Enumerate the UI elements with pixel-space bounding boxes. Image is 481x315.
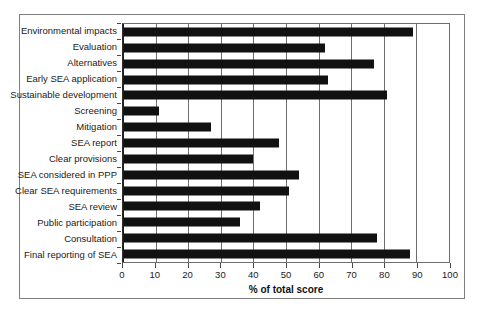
category-label: Final reporting of SEA: [20, 247, 121, 263]
bar-slot: [123, 40, 449, 56]
bar[interactable]: [123, 138, 279, 147]
x-tick-label: 50: [281, 269, 292, 281]
category-label: Consultation: [20, 231, 121, 247]
category-tick-mark: [117, 231, 121, 232]
x-tick-label: 0: [119, 269, 124, 281]
category-label: Environmental impacts: [20, 23, 121, 39]
category-tick-mark: [117, 55, 121, 56]
bars-layer: [123, 24, 449, 262]
category-tick-mark: [117, 135, 121, 136]
bar[interactable]: [123, 59, 374, 68]
category-tick-mark: [117, 183, 121, 184]
tick-mark: [220, 263, 221, 268]
x-tick-label: 80: [379, 269, 390, 281]
bar[interactable]: [123, 123, 211, 132]
bar-slot: [123, 214, 449, 230]
tick-mark: [122, 263, 123, 268]
bar[interactable]: [123, 43, 325, 52]
value-axis-tick-marks: [122, 263, 450, 268]
category-label: Mitigation: [20, 119, 121, 135]
category-tick-mark: [117, 119, 121, 120]
category-tick-mark: [117, 263, 121, 264]
category-label: Screening: [20, 103, 121, 119]
x-tick-label: 30: [215, 269, 226, 281]
bar[interactable]: [123, 249, 410, 258]
tick-mark: [319, 263, 320, 268]
category-label: SEA report: [20, 135, 121, 151]
category-tick-mark: [117, 151, 121, 152]
bar-slot: [123, 119, 449, 135]
bar[interactable]: [123, 170, 299, 179]
category-tick-mark: [117, 103, 121, 104]
bar-slot: [123, 183, 449, 199]
bar[interactable]: [123, 91, 387, 100]
bar[interactable]: [123, 27, 413, 36]
bar-slot: [123, 72, 449, 88]
category-label: Evaluation: [20, 39, 121, 55]
category-label: SEA review: [20, 199, 121, 215]
category-tick-mark: [117, 71, 121, 72]
tick-mark: [253, 263, 254, 268]
tick-mark: [384, 263, 385, 268]
tick-mark: [352, 263, 353, 268]
x-axis-title: % of total score: [122, 284, 450, 295]
bar[interactable]: [123, 186, 289, 195]
category-label: Public participation: [20, 215, 121, 231]
bar[interactable]: [123, 107, 159, 116]
tick-mark: [417, 263, 418, 268]
x-tick-label: 40: [248, 269, 259, 281]
x-tick-label: 100: [442, 269, 458, 281]
category-label: SEA considered in PPP: [20, 167, 121, 183]
category-tick-mark: [117, 23, 121, 24]
bar[interactable]: [123, 75, 328, 84]
bar-slot: [123, 56, 449, 72]
category-label: Alternatives: [20, 55, 121, 71]
plot-area: [122, 23, 450, 263]
bar-slot: [123, 246, 449, 262]
category-axis: Environmental impacts Evaluation Alterna…: [20, 23, 121, 263]
bar-slot: [123, 135, 449, 151]
category-tick-mark: [117, 87, 121, 88]
category-tick-mark: [117, 39, 121, 40]
category-tick-mark: [117, 199, 121, 200]
tick-mark: [155, 263, 156, 268]
bar-slot: [123, 87, 449, 103]
value-axis-line: [123, 24, 124, 262]
bar[interactable]: [123, 234, 377, 243]
bar[interactable]: [123, 202, 260, 211]
category-tick-mark: [117, 247, 121, 248]
x-tick-label: 10: [150, 269, 161, 281]
category-label: Clear SEA requirements: [20, 183, 121, 199]
x-tick-label: 60: [314, 269, 325, 281]
bar-slot: [123, 24, 449, 40]
figure-frame: Environmental impacts Evaluation Alterna…: [19, 14, 465, 299]
category-label: Sustainable development: [20, 87, 121, 103]
tick-mark: [286, 263, 287, 268]
category-tick-mark: [117, 167, 121, 168]
bar-slot: [123, 151, 449, 167]
category-label: Early SEA application: [20, 71, 121, 87]
bar-chart: Environmental impacts Evaluation Alterna…: [20, 15, 466, 300]
tick-mark: [450, 263, 451, 268]
bar-slot: [123, 103, 449, 119]
category-label: Clear provisions: [20, 151, 121, 167]
tick-mark: [188, 263, 189, 268]
bar-slot: [123, 198, 449, 214]
value-axis-tick-labels: 0102030405060708090100: [122, 269, 450, 283]
x-tick-label: 90: [412, 269, 423, 281]
bar-slot: [123, 230, 449, 246]
bar-slot: [123, 167, 449, 183]
bar[interactable]: [123, 154, 253, 163]
bar[interactable]: [123, 218, 240, 227]
x-tick-label: 70: [346, 269, 357, 281]
category-tick-mark: [117, 215, 121, 216]
x-tick-label: 20: [182, 269, 193, 281]
